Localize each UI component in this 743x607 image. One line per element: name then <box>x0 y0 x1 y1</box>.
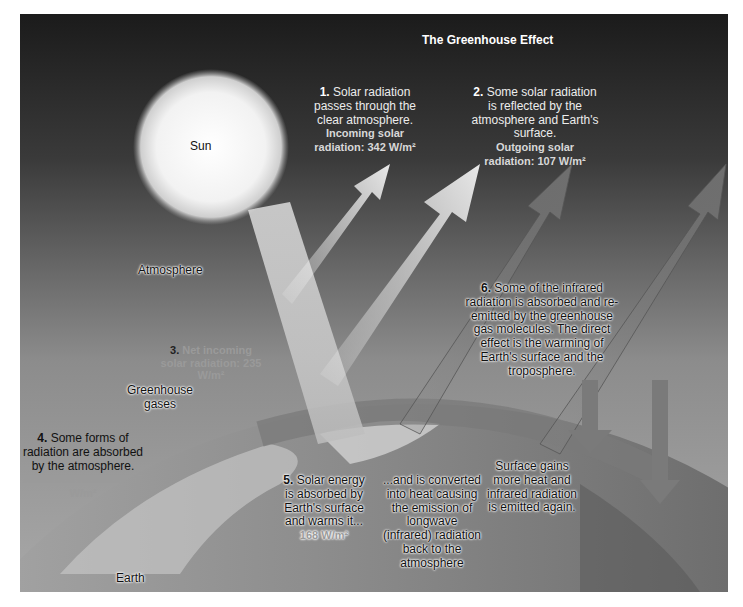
step-4-annotation: 4. Some forms of radiation are absorbed … <box>20 432 148 501</box>
step-3-number: 3. <box>170 344 179 356</box>
diagram-title: The Greenhouse Effect <box>422 34 553 48</box>
step-5-number: 5. <box>283 473 293 487</box>
step-3-annotation: 3. Net incoming solar radiation: 235 W/m… <box>156 344 266 382</box>
step-5-annotation: 5. Solar energy is absorbed by Earth's s… <box>282 474 366 543</box>
step-1-metric: Incoming solar radiation: 342 W/m² <box>314 127 415 153</box>
step-6-annotation: 6. Some of the infrared radiation is abs… <box>462 282 622 379</box>
step-1-number: 1. <box>320 85 330 99</box>
step-1-annotation: 1. Solar radiation passes through the cl… <box>300 86 430 155</box>
step-5-text: Solar energy is absorbed by Earth's surf… <box>284 473 365 528</box>
surface-gains-annotation: Surface gains more heat and infrared rad… <box>484 460 580 515</box>
step-6-number: 6. <box>481 281 491 295</box>
step-4-metric: Absorbed radiation: 67 W/m² <box>23 473 143 499</box>
step-2-metric: Outgoing solar radiation: 107 W/m² <box>484 141 585 167</box>
step-4-number: 4. <box>37 431 47 445</box>
atmosphere-label: Atmosphere <box>138 264 203 278</box>
step-2-text: Some solar radiation is reflected by the… <box>471 85 598 140</box>
step-6-text: Some of the infrared radiation is absorb… <box>466 281 619 378</box>
greenhouse-effect-diagram: The Greenhouse Effect Sun Atmosphere Gre… <box>20 14 728 592</box>
step-2-annotation: 2. Some solar radiation is reflected by … <box>470 86 600 169</box>
greenhouse-gases-label: Greenhouse gases <box>120 384 200 412</box>
converted-heat-annotation: ...and is converted into heat causing th… <box>382 474 482 571</box>
step-2-number: 2. <box>473 85 483 99</box>
sun-label: Sun <box>190 140 211 154</box>
step-1-text: Solar radiation passes through the clear… <box>314 85 416 127</box>
earth-label: Earth <box>116 572 145 586</box>
step-5-metric: 168 W/m² <box>300 529 348 541</box>
